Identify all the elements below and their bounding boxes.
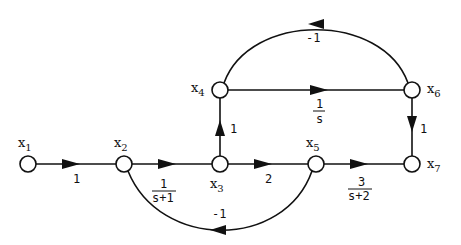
gain-x4-x6-num: 1	[316, 97, 323, 111]
arrow-icon	[407, 116, 417, 132]
node-label-x3: x3	[210, 176, 224, 194]
node-label-x2: x2	[114, 135, 128, 153]
node-x7	[404, 156, 420, 172]
gain-x2-x3-den: s+1	[152, 191, 174, 205]
node-x6	[404, 82, 420, 98]
arrow-icon	[62, 159, 80, 169]
gain-x4-x6-den: s	[316, 112, 323, 126]
node-x5	[308, 156, 324, 172]
node-x2	[116, 156, 132, 172]
gain-x3-x5: 2	[265, 172, 272, 186]
arrow-icon	[210, 225, 226, 235]
node-label-x1: x1	[18, 135, 32, 153]
node-label-x7: x7	[427, 156, 441, 174]
node-x3	[212, 156, 228, 172]
node-x4	[212, 82, 228, 98]
gain-x3-x4: 1	[230, 122, 237, 136]
node-x1	[20, 156, 36, 172]
gain-x5-x7-den: s+2	[348, 189, 370, 203]
gain-x5-x2: -1	[212, 207, 226, 221]
arrow-icon	[254, 159, 272, 169]
arrow-icon	[350, 159, 368, 169]
arrow-icon	[308, 19, 324, 29]
gain-x6-x7: 1	[420, 122, 427, 136]
gain-x5-x7-num: 3	[358, 175, 365, 189]
gain-x6-x4: -1	[306, 31, 320, 45]
signal-flow-graph: x1 x2 x3 x4 x5 x6 x7 1 1 s+1 2 3 s+2 1 1…	[0, 0, 461, 245]
gain-x1-x2: 1	[73, 172, 80, 186]
arrow-icon	[215, 120, 225, 136]
arrow-icon	[310, 85, 328, 95]
node-label-x4: x4	[191, 80, 205, 98]
node-label-x5: x5	[306, 135, 320, 153]
arrow-icon	[158, 159, 176, 169]
node-label-x6: x6	[427, 81, 441, 99]
gain-x2-x3-num: 1	[160, 177, 167, 191]
